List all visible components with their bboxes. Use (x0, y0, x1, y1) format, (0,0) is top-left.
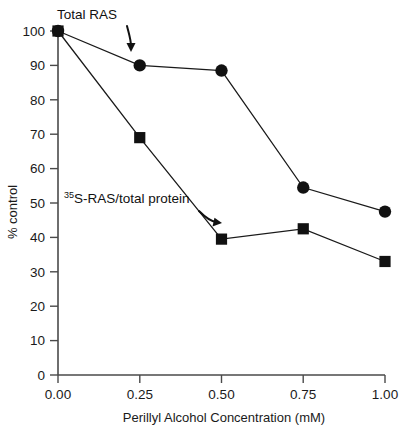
annotation-s35-ras-text: S-RAS/total protein (74, 191, 190, 206)
data-point-circle (379, 205, 391, 217)
x-tick-label: 0.50 (208, 387, 234, 402)
annotation-s35-ras-arrowhead (213, 218, 223, 227)
data-point-square (52, 25, 63, 36)
series-total-ras (52, 25, 391, 218)
series-markers-s35-ras (52, 25, 390, 267)
y-tick-label: 100 (22, 24, 45, 39)
x-tick-label: 1.00 (372, 387, 398, 402)
data-point-square (298, 223, 309, 234)
y-tick-label: 70 (30, 127, 45, 142)
data-point-square (134, 132, 145, 143)
annotation-s35-ras-superscript: 35 (64, 190, 74, 200)
y-tick-label: 50 (30, 196, 45, 211)
y-tick-label: 40 (30, 230, 45, 245)
y-tick-label: 90 (30, 58, 45, 73)
x-tick-label: 0.00 (45, 387, 71, 402)
y-tick-label: 80 (30, 93, 45, 108)
data-point-circle (134, 59, 146, 71)
y-tick-label: 30 (30, 265, 45, 280)
line-chart: 0 10 20 30 40 50 60 70 80 90 100 0.00 0.… (0, 0, 412, 435)
x-tick-label: 0.75 (290, 387, 316, 402)
series-s35-ras (52, 25, 390, 267)
figure-panel: 0 10 20 30 40 50 60 70 80 90 100 0.00 0.… (0, 0, 412, 435)
annotation-total-ras-label: Total RAS (57, 7, 117, 22)
data-point-square (379, 256, 390, 267)
data-point-square (216, 234, 227, 245)
y-tick-label: 0 (37, 368, 45, 383)
x-tick-label: 0.25 (127, 387, 153, 402)
y-tick-label: 10 (30, 333, 45, 348)
annotation-s35-ras: 35S-RAS/total protein (64, 190, 222, 227)
series-markers-total-ras (52, 25, 391, 218)
y-tick-label: 20 (30, 299, 45, 314)
annotation-s35-ras-arrow (199, 211, 216, 222)
y-axis-title: % control (5, 185, 20, 239)
x-tick-group: 0.00 0.25 0.50 0.75 1.00 (45, 375, 398, 402)
annotation-total-ras-arrowhead (127, 43, 136, 52)
x-axis-title: Perillyl Alcohol Concentration (mM) (123, 410, 325, 425)
y-tick-group: 0 10 20 30 40 50 60 70 80 90 100 (22, 24, 58, 383)
y-tick-label: 60 (30, 161, 45, 176)
series-line-total-ras (58, 31, 385, 212)
annotation-s35-ras-label: 35S-RAS/total protein (64, 190, 190, 206)
data-point-circle (215, 64, 227, 76)
data-point-circle (297, 181, 309, 193)
